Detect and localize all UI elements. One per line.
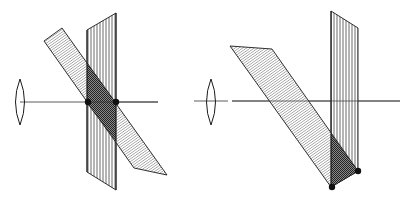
lens-icon bbox=[207, 79, 216, 125]
optics-figure bbox=[0, 0, 411, 200]
diagram-canvas bbox=[0, 0, 411, 200]
intersection-point bbox=[113, 99, 119, 105]
intersection-point bbox=[329, 184, 335, 190]
intersection-point bbox=[355, 168, 361, 174]
intersection-point bbox=[85, 99, 91, 105]
right-panel bbox=[194, 11, 400, 190]
left-panel bbox=[16, 13, 168, 190]
